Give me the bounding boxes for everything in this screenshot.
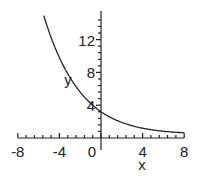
x-axis-label: x (138, 156, 146, 173)
axes (18, 11, 184, 150)
y-tick-label: 8 (87, 64, 95, 81)
curve-label: y (64, 71, 72, 88)
y-tick-label: 4 (87, 97, 95, 114)
x-tick-label: -8 (11, 143, 24, 160)
plot-area: -8-40484812xy (0, 0, 198, 185)
y-tick-label: 12 (78, 32, 95, 49)
x-tick-label: 0 (88, 143, 96, 160)
x-tick-label: 8 (180, 143, 188, 160)
x-tick-label: -4 (53, 143, 66, 160)
